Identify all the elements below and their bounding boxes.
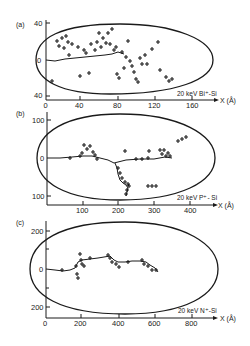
panel-b-ytick-top: 100 (32, 116, 45, 125)
panel-a-xtick-0: 0 (44, 101, 48, 110)
panel-b-xtick-0: 100 (76, 206, 89, 215)
panel-b-x-label: X (Å) (218, 201, 234, 210)
panel-a: (a) 40 0 40 0 40 80 120 160 X (Å) 20 keV… (16, 19, 236, 110)
panel-b-annotation: 20 keV P⁺- Si (177, 194, 217, 201)
panel-c-label: (c) (16, 219, 24, 227)
panel-a-x-label: X (Å) (220, 96, 236, 105)
panel-c-xtick-0: 0 (43, 319, 47, 328)
panel-a-annotation: 20 keV Bi⁺-Si (177, 90, 217, 97)
ion-track-figure: (a) 40 0 40 0 40 80 120 160 X (Å) 20 keV… (0, 0, 250, 346)
panel-b-ytick-zero: 0 (40, 154, 44, 163)
panel-c-xtick-2: 400 (112, 319, 125, 328)
panel-a-ytick-zero: 0 (37, 56, 41, 65)
panel-a-xtick-4: 160 (186, 101, 199, 110)
panel-a-xtick-1: 40 (75, 101, 83, 110)
panel-a-label: (a) (16, 21, 25, 29)
panel-a-ytick-bottom: 40 (34, 91, 42, 100)
panel-c-xtick-4: 800 (185, 319, 198, 328)
panel-b-xtick-3: 400 (184, 206, 197, 215)
panel-c: (c) 200 0 200 0 200 400 600 800 X (Å) 20… (16, 219, 236, 328)
panel-b-ytick-bottom: 100 (32, 192, 45, 201)
panel-a-x-arrow-icon (214, 98, 219, 102)
panel-b-envelope (37, 114, 215, 200)
panel-c-envelope (30, 222, 218, 314)
panel-a-xtick-2: 80 (113, 101, 121, 110)
panel-b-xtick-2: 300 (148, 206, 161, 215)
panel-c-ytick-zero: 0 (39, 265, 43, 274)
panel-b-track (47, 156, 172, 163)
panel-c-ytick-bottom: 200 (31, 303, 44, 312)
panel-b-points (68, 135, 188, 196)
panel-c-x-arrow-icon (213, 316, 218, 320)
panel-b: (b) 100 0 100 100 200 300 400 X (Å) 20 k… (16, 110, 234, 215)
panel-a-points (50, 27, 174, 84)
panel-c-xtick-1: 200 (74, 319, 87, 328)
panel-c-xtick-3: 600 (148, 319, 161, 328)
panel-c-ytick-top: 200 (31, 227, 44, 236)
panel-c-x-label: X (Å) (220, 314, 236, 323)
panel-a-xtick-3: 120 (148, 101, 161, 110)
panel-b-xtick-1: 200 (112, 206, 125, 215)
panel-c-annotation: 20 keV N⁺-Si (178, 307, 217, 314)
panel-b-label: (b) (16, 110, 25, 118)
panel-a-ytick-top: 40 (34, 19, 42, 28)
